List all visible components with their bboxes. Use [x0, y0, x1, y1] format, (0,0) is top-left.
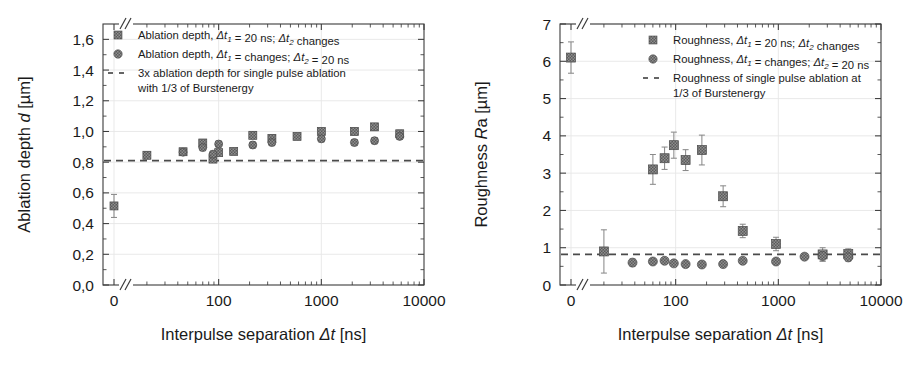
data-point [697, 135, 706, 165]
panel-ablation-depth: 0,00,20,40,60,81,01,21,41,60100100010000… [0, 0, 457, 366]
data-point [697, 260, 706, 269]
y-axis-title: Roughness Ra [µm] [472, 81, 490, 227]
y-tick-label: 4 [542, 127, 551, 144]
data-point [772, 257, 781, 266]
y-axis-title: Ablation depth d [µm] [15, 76, 33, 232]
x-axis-title: Interpulse separation Δt [ns] [161, 325, 367, 343]
data-point [396, 132, 404, 140]
legend-label: with 1/3 of Burstenergy [137, 82, 254, 94]
data-point [317, 127, 325, 135]
legend: Roughness, Δt1 = 20 ns; Δt2 changesRough… [643, 34, 870, 99]
data-point [209, 150, 217, 158]
y-tick-label: 1,4 [72, 62, 94, 79]
series-circle [628, 251, 853, 269]
data-point [681, 150, 690, 171]
y-tick-label: 1,6 [72, 31, 94, 48]
data-point [179, 148, 187, 156]
legend-marker-circle [114, 50, 122, 58]
legend-label: Roughness of single pulse ablation at [673, 72, 862, 84]
data-point [249, 131, 257, 139]
x-axis-title: Interpulse separation Δt [ns] [618, 325, 824, 343]
y-tick-label: 0,6 [72, 184, 94, 201]
legend-label: 1/3 of Burstenergy [673, 87, 766, 99]
chart-ablation-depth: 0,00,20,40,60,81,01,21,41,60100100010000… [0, 0, 457, 366]
data-point [350, 139, 358, 147]
legend-marker-square [649, 36, 657, 44]
data-point [199, 144, 207, 152]
data-point [628, 258, 637, 267]
data-point [371, 137, 379, 145]
data-point [648, 257, 657, 266]
data-point [567, 42, 576, 73]
axis-break-mark [576, 18, 590, 290]
y-tick-label: 1,0 [72, 123, 94, 140]
legend-marker-circle [649, 55, 657, 63]
data-point [660, 256, 669, 265]
x-tick-label: 0 [110, 292, 119, 309]
y-tick-label: 0,0 [72, 277, 94, 294]
legend-label: Roughness, Δt1 = changes; Δt2 = 20 ns [673, 53, 870, 71]
y-tick-label: 1 [542, 239, 551, 256]
y-tick-label: 5 [542, 90, 551, 107]
data-point [110, 194, 118, 217]
data-point [660, 147, 669, 169]
x-tick-label: 0 [567, 292, 576, 309]
data-point [669, 259, 678, 268]
data-point [268, 139, 276, 147]
y-tick-label: 0 [542, 277, 551, 294]
legend: Ablation depth, Δt1 = 20 ns; Δt2 changes… [108, 29, 350, 94]
data-point [800, 252, 809, 261]
axis-break-mark [119, 18, 133, 290]
data-point [215, 140, 223, 148]
y-tick-label: 2 [542, 202, 551, 219]
x-tick-label: 100 [206, 292, 232, 309]
data-point [293, 132, 301, 140]
x-tick-label: 1000 [304, 292, 339, 309]
x-tick-label: 10000 [402, 292, 445, 309]
y-tick-label: 6 [542, 53, 551, 70]
series-circle [179, 132, 404, 158]
data-point [772, 237, 781, 250]
data-point [681, 260, 690, 269]
data-point [648, 155, 657, 185]
data-point [738, 256, 747, 265]
data-point [818, 251, 827, 261]
data-point [719, 186, 728, 207]
y-tick-label: 7 [542, 16, 551, 33]
series-square [110, 123, 404, 218]
data-point [599, 230, 608, 273]
y-tick-label: 0,8 [72, 154, 94, 171]
data-point [844, 253, 853, 262]
data-point [350, 127, 358, 135]
data-point [143, 151, 151, 159]
y-tick-label: 0,4 [72, 215, 94, 232]
y-tick-label: 1,2 [72, 92, 94, 109]
data-point [719, 260, 728, 269]
legend-label: 3x ablation depth for single pulse ablat… [138, 67, 346, 79]
x-tick-label: 1000 [761, 292, 796, 309]
y-tick-label: 3 [542, 165, 551, 182]
data-point [230, 147, 238, 155]
legend-label: Ablation depth, Δt1 = changes; Δt2 = 20 … [138, 48, 350, 66]
legend-marker-square [114, 31, 122, 39]
data-point [317, 135, 325, 143]
data-point [738, 224, 747, 237]
x-tick-label: 10000 [859, 292, 902, 309]
figure-two-panel-scatter-plots: 0,00,20,40,60,81,01,21,41,60100100010000… [0, 0, 914, 366]
x-tick-label: 100 [663, 292, 689, 309]
panel-roughness: 012345670100100010000Roughness, Δt1 = 20… [457, 0, 914, 366]
legend-label: Roughness, Δt1 = 20 ns; Δt2 changes [673, 34, 860, 52]
legend-label: Ablation depth, Δt1 = 20 ns; Δt2 changes [138, 29, 340, 47]
y-tick-label: 0,2 [72, 246, 94, 263]
data-point [371, 123, 379, 131]
data-point [249, 141, 257, 149]
chart-roughness: 012345670100100010000Roughness, Δt1 = 20… [457, 0, 914, 366]
